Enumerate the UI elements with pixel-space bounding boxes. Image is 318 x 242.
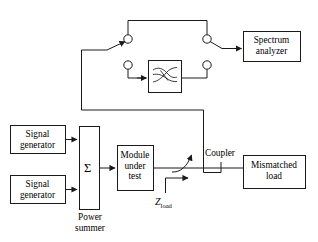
switch-lower-right-contact[interactable] bbox=[203, 61, 211, 69]
module-under-test-label: Module under test bbox=[117, 150, 153, 182]
wire-switch-blade-left bbox=[107, 42, 125, 51]
mismatched-load-line1: Mismatched bbox=[243, 160, 305, 171]
power-summer-sigma-symbol: Σ bbox=[84, 161, 91, 176]
switch-upper-left-contact[interactable] bbox=[124, 35, 132, 43]
signal-generator-1-line2: generator bbox=[10, 140, 65, 151]
coupler-label: Coupler bbox=[205, 148, 245, 159]
module-line3: test bbox=[117, 171, 153, 182]
wire-top-bypass-path bbox=[128, 21, 207, 35]
wire-switch-blade-right bbox=[210, 42, 241, 49]
wire-filter-output-leg bbox=[182, 69, 208, 78]
coupler-bracket bbox=[204, 162, 222, 173]
wire-tap-to-switch-rail bbox=[82, 50, 204, 110]
spectrum-analyzer-label: Spectrum analyzer bbox=[243, 35, 300, 56]
spectrum-analyzer-line1: Spectrum bbox=[243, 35, 300, 46]
diagram-canvas: Signal generator Signal generator Σ Powe… bbox=[0, 0, 318, 242]
signal-generator-2-label: Signal generator bbox=[10, 179, 65, 200]
mismatched-load-line2: load bbox=[243, 171, 305, 182]
z-load-subscript: load bbox=[161, 202, 172, 209]
module-line1: Module bbox=[117, 150, 153, 161]
mismatched-load-label: Mismatched load bbox=[243, 160, 305, 181]
power-summer-label: Power summer bbox=[62, 212, 118, 233]
coupler-coupling-arrow bbox=[172, 155, 192, 172]
switch-lower-left-contact[interactable] bbox=[124, 61, 132, 69]
signal-generator-1-line1: Signal bbox=[10, 129, 65, 140]
power-summer-line2: summer bbox=[62, 223, 118, 234]
zload-pointer bbox=[166, 178, 189, 193]
signal-generator-1-label: Signal generator bbox=[10, 129, 65, 150]
wire-filter-input-leg bbox=[128, 69, 146, 78]
power-summer-line1: Power bbox=[62, 212, 118, 223]
signal-generator-2-line1: Signal bbox=[10, 179, 65, 190]
signal-generator-2-line2: generator bbox=[10, 190, 65, 201]
module-line2: under bbox=[117, 161, 153, 172]
switch-upper-right-contact[interactable] bbox=[203, 35, 211, 43]
spectrum-analyzer-line2: analyzer bbox=[243, 46, 300, 57]
z-load-label: Zload bbox=[155, 196, 172, 209]
